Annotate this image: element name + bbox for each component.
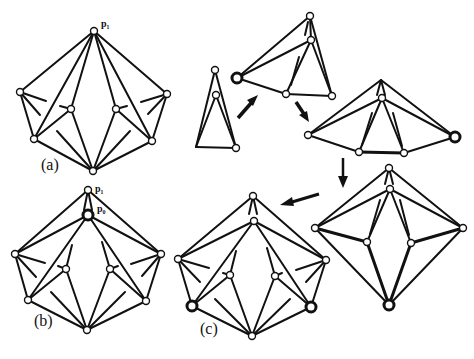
diagram-svg xyxy=(0,0,474,359)
panel-b-label: (b) xyxy=(34,312,53,330)
step-4-graph xyxy=(312,165,467,311)
panel-c-label: (c) xyxy=(200,320,218,338)
p0-label-b: p₀ xyxy=(97,203,106,214)
triangulation-figure: (a) (b) (c) p₁ p₁ p₀ xyxy=(0,0,474,359)
arrow-left-icon xyxy=(280,194,319,206)
panel-a-graph xyxy=(17,28,171,175)
arrow-up-right-icon xyxy=(238,95,258,118)
arrow-down-icon xyxy=(338,158,348,188)
arrow-down-right-icon xyxy=(296,102,309,122)
step-2-graph xyxy=(232,13,336,100)
panel-a-label: (a) xyxy=(41,156,59,174)
p1-label-a: p₁ xyxy=(101,18,110,29)
panel-c-graph xyxy=(175,193,330,340)
sequence-arrows xyxy=(238,95,348,206)
step-3-graph xyxy=(305,80,461,157)
p1-label-b: p₁ xyxy=(95,183,104,194)
